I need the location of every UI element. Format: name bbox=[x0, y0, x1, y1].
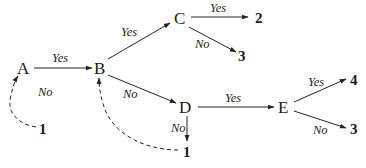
terminal-3-e: 3 bbox=[350, 121, 358, 137]
edge-1-to-a-dashed bbox=[10, 76, 36, 127]
node-d: D bbox=[179, 98, 191, 117]
label-d1-no: No bbox=[170, 121, 186, 135]
edge-b-c bbox=[108, 23, 170, 59]
label-e3-no: No bbox=[312, 123, 328, 137]
node-c: C bbox=[174, 9, 185, 28]
label-de-yes: Yes bbox=[225, 91, 241, 105]
label-e4-yes: Yes bbox=[308, 75, 324, 89]
label-bc-yes: Yes bbox=[121, 25, 137, 39]
edge-b-d bbox=[108, 75, 176, 103]
decision-flow-diagram: A B C D E 1 2 3 1 4 3 Yes No Yes No Yes … bbox=[0, 0, 366, 168]
node-a: A bbox=[17, 59, 30, 78]
terminal-2: 2 bbox=[255, 10, 263, 26]
terminal-1-a: 1 bbox=[39, 121, 47, 137]
label-ab-yes: Yes bbox=[52, 51, 68, 65]
label-c2-yes: Yes bbox=[210, 1, 226, 15]
node-b: B bbox=[94, 59, 105, 78]
node-e: E bbox=[278, 98, 288, 117]
terminal-3-c: 3 bbox=[238, 48, 246, 64]
terminal-4: 4 bbox=[350, 72, 358, 88]
terminal-1-d: 1 bbox=[183, 144, 191, 160]
label-a-no: No bbox=[37, 85, 53, 99]
label-c3-no: No bbox=[194, 37, 210, 51]
edge-1-to-b-dashed bbox=[99, 78, 178, 150]
label-bd-no: No bbox=[122, 87, 138, 101]
